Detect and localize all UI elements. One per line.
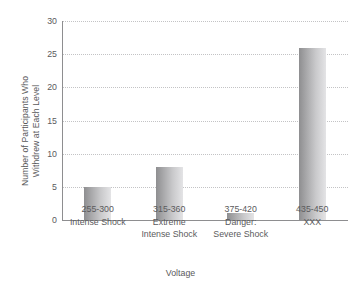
x-axis-tick-description: Severe Shock [213, 228, 268, 241]
x-axis-tick-range: 315-360 [141, 203, 197, 216]
y-axis-tick-label: 20 [47, 82, 57, 92]
y-axis-title: Number of Participants Who Withdrew at E… [16, 51, 46, 211]
x-axis-tick-description: Extreme [141, 216, 197, 229]
y-axis-tick-label: 10 [47, 149, 57, 159]
y-axis-tick-label: 25 [47, 49, 57, 59]
x-axis-tick-label: 435-450XXX [296, 203, 328, 228]
x-axis-tick-description: Intense Shock [70, 216, 126, 229]
x-axis-tick-description: XXX [296, 216, 328, 229]
x-axis-tick-description: Intense Shock [141, 228, 197, 241]
x-axis-tick-description: Danger: [213, 216, 268, 229]
y-axis-tick-label: 30 [47, 16, 57, 26]
bar-chart: Number of Participants Who Withdrew at E… [0, 0, 361, 292]
y-axis-tick-label: 5 [52, 182, 57, 192]
bar [299, 48, 326, 220]
x-axis-tick-range: 255-300 [70, 203, 126, 216]
gridline [63, 21, 348, 22]
y-axis-title-line-2: Withdrew at Each Level [31, 85, 42, 177]
x-axis-tick-label: 255-300Intense Shock [70, 203, 126, 228]
x-axis-tick-range: 375-420 [213, 203, 268, 216]
x-axis-tick-label: 315-360ExtremeIntense Shock [141, 203, 197, 241]
x-axis-title: Voltage [0, 268, 361, 278]
y-axis-title-line-1: Number of Participants Who [20, 76, 31, 186]
y-axis-tick-label: 0 [52, 215, 57, 225]
y-axis-tick-label: 15 [47, 116, 57, 126]
plot-area: 051015202530 [62, 21, 348, 220]
x-axis-tick-label: 375-420Danger:Severe Shock [213, 203, 268, 241]
x-axis-tick-range: 435-450 [296, 203, 328, 216]
